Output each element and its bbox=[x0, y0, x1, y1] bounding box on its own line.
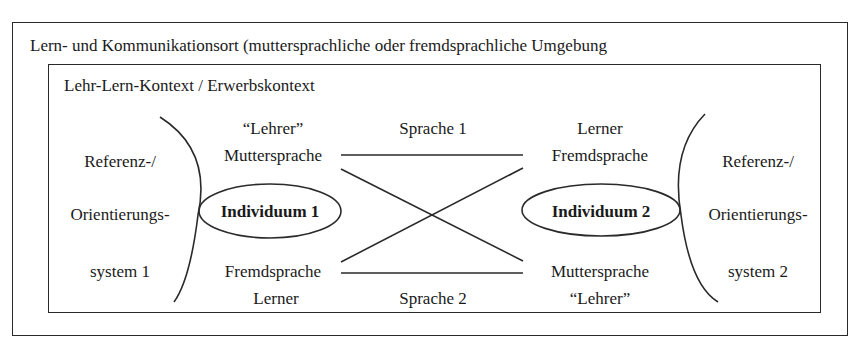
individual-1-top-role: “Lehrer” bbox=[243, 119, 303, 139]
individual-2-top-language: Fremdsprache bbox=[552, 146, 648, 166]
individual-2-top-role: Lerner bbox=[577, 119, 622, 139]
individual-1-bottom-language: Fremdsprache bbox=[225, 262, 321, 282]
right-system-line-1: Referenz-/ bbox=[722, 152, 794, 172]
right-system-line-2: Orientierungs- bbox=[708, 205, 807, 225]
left-system-line-1: Referenz-/ bbox=[84, 152, 156, 172]
teaching-learning-context-frame bbox=[48, 64, 821, 313]
inner-frame-title: Lehr-Lern-Kontext / Erwerbskontext bbox=[64, 76, 315, 96]
outer-frame-title: Lern- und Kommunikationsort (muttersprac… bbox=[30, 36, 607, 56]
individual-1-label: Individuum 1 bbox=[221, 202, 320, 222]
left-system-line-3: system 1 bbox=[90, 262, 150, 282]
language-1-label: Sprache 1 bbox=[399, 119, 467, 139]
individual-2-label: Individuum 2 bbox=[552, 202, 651, 222]
individual-1-bottom-role: Lerner bbox=[253, 289, 298, 309]
left-system-line-2: Orientierungs- bbox=[70, 205, 169, 225]
language-2-label: Sprache 2 bbox=[399, 289, 467, 309]
individual-1-top-language: Muttersprache bbox=[224, 146, 322, 166]
right-system-line-3: system 2 bbox=[728, 262, 788, 282]
individual-2-bottom-role: “Lehrer” bbox=[570, 289, 630, 309]
individual-2-bottom-language: Muttersprache bbox=[551, 262, 649, 282]
